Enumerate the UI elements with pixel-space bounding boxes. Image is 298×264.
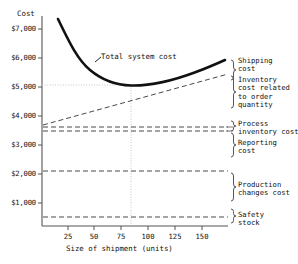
brace-process [231, 121, 236, 131]
x-tick-label-25: 25 [58, 232, 78, 241]
x-tick-label-100: 100 [138, 232, 158, 241]
x-axis-ticks [68, 226, 202, 230]
brace-production [231, 173, 236, 201]
x-tick-label-150: 150 [192, 232, 212, 241]
inventory-order-quantity-line [43, 74, 228, 125]
right-label-production-changes-cost: Production changes cost [238, 181, 290, 198]
brace-safety [231, 209, 236, 223]
y-tick-label-3000: $3,000 [0, 140, 36, 149]
brace-reporting [231, 133, 236, 157]
y-tick-label-4000: $4,000 [0, 111, 36, 120]
right-label-shipping-cost: Shipping cost [238, 57, 273, 74]
x-tick-label-125: 125 [165, 232, 185, 241]
chart-figure: $7,000 $6,000 $5,000 $4,000 $3,000 $2,00… [0, 0, 298, 264]
x-tick-label-50: 50 [84, 232, 104, 241]
right-label-safety-stock: Safety stock [238, 211, 264, 228]
x-axis-title: Size of shipment (units) [66, 244, 173, 253]
x-tick-label-75: 75 [111, 232, 131, 241]
right-label-process-inventory-cost: Process inventory cost [238, 120, 298, 137]
right-label-inventory-order-quantity: Inventory cost related to order quantity [238, 76, 290, 110]
y-axis-ticks [38, 29, 42, 203]
y-tick-label-2000: $2,000 [0, 169, 36, 178]
y-tick-label-5000: $5,000 [0, 82, 36, 91]
right-brace-group [231, 60, 236, 223]
y-tick-label-7000: $7,000 [0, 24, 36, 33]
brace-inventory [231, 76, 236, 108]
y-tick-label-1000: $1,000 [0, 198, 36, 207]
total-system-cost-annotation: Total system cost [101, 52, 177, 61]
right-edge-ticks [226, 127, 233, 131]
right-label-reporting-cost: Reporting cost [238, 139, 277, 156]
y-axis-title: Cost [17, 9, 35, 18]
y-tick-label-6000: $6,000 [0, 53, 36, 62]
